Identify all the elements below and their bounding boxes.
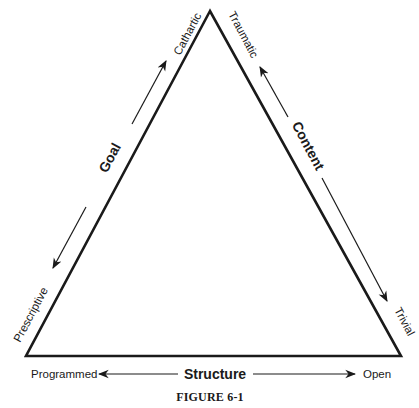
figure-caption: FIGURE 6-1 bbox=[176, 390, 244, 404]
goal-pole-prescriptive: Prescriptive bbox=[11, 285, 50, 344]
content-axis: Content Traumatic Trivial bbox=[226, 9, 417, 337]
structure-pole-open: Open bbox=[363, 368, 391, 380]
structure-pole-programmed: Programmed bbox=[31, 368, 97, 380]
content-pole-trivial: Trivial bbox=[392, 305, 417, 337]
structure-axis: Programmed Structure Open bbox=[31, 366, 391, 382]
goal-label: Goal bbox=[95, 140, 124, 175]
structure-label: Structure bbox=[184, 366, 246, 382]
triangle-outline bbox=[26, 11, 401, 356]
goal-axis: Goal Cathartic Prescriptive bbox=[11, 10, 203, 343]
triangle-diagram: Goal Cathartic Prescriptive Content Trau… bbox=[0, 0, 419, 408]
content-arrow-lower bbox=[322, 178, 387, 301]
goal-arrow-lower bbox=[53, 207, 86, 268]
goal-arrow-upper bbox=[132, 61, 166, 124]
